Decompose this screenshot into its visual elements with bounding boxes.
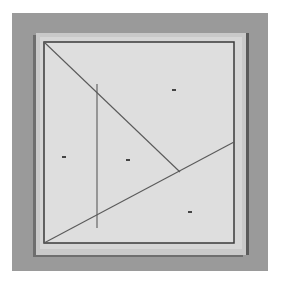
square-outline	[44, 42, 234, 243]
geometric-drawing	[0, 0, 282, 283]
pencil-mark	[126, 159, 130, 161]
pencil-mark	[172, 89, 176, 91]
pencil-mark	[62, 156, 66, 158]
pencil-mark	[188, 211, 192, 213]
